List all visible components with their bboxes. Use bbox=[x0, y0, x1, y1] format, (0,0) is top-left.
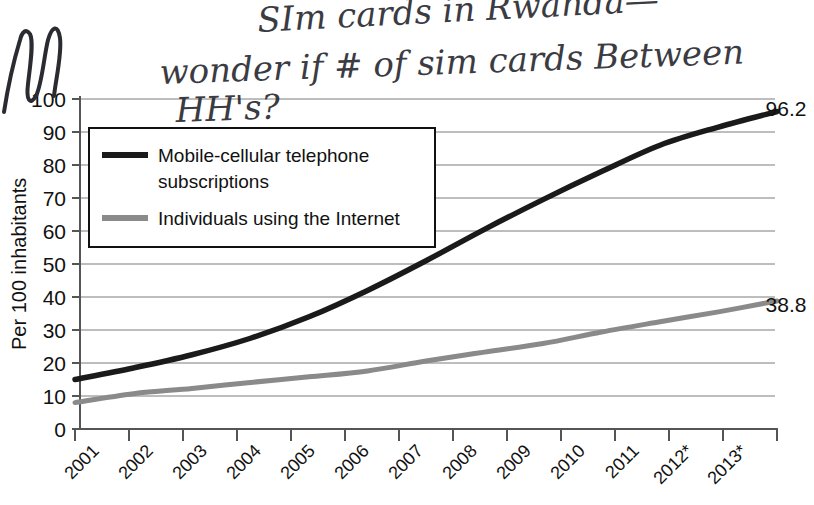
x-tick-label: 2010 bbox=[546, 441, 588, 483]
x-tick-label: 2002 bbox=[114, 441, 156, 483]
legend-label-mobile-line2: subscriptions bbox=[158, 171, 269, 192]
annotation-line-1: SIm cards in Rwanda— bbox=[256, 0, 659, 40]
x-tick-label: 2011 bbox=[601, 441, 643, 483]
x-tick-label: 2001 bbox=[60, 441, 102, 483]
x-tick-labels: 2001 2002 2003 2004 2005 2006 2007 2008 … bbox=[60, 441, 750, 488]
end-label-mobile: 96.2 bbox=[766, 97, 807, 120]
y-tick-label: 60 bbox=[43, 220, 66, 243]
y-tick-label: 10 bbox=[43, 385, 66, 408]
y-tick-label: 50 bbox=[43, 253, 66, 276]
x-tick-label: 2012* bbox=[649, 441, 696, 488]
y-tick-labels: 100 90 80 70 60 50 40 30 20 10 0 bbox=[31, 88, 66, 441]
y-tick-label: 80 bbox=[43, 154, 66, 177]
x-tick-label: 2006 bbox=[330, 441, 372, 483]
x-tick-label: 2003 bbox=[168, 441, 210, 483]
line-chart-svg: 100 90 80 70 60 50 40 30 20 10 0 Per 100… bbox=[0, 0, 814, 505]
y-tick-label: 70 bbox=[43, 187, 66, 210]
x-tick-label: 2008 bbox=[438, 441, 480, 483]
x-tick-label: 2004 bbox=[222, 441, 264, 483]
annotation-line-2: wonder if # of sim cards Between bbox=[159, 32, 745, 92]
legend-label-mobile-line1: Mobile-cellular telephone bbox=[158, 145, 369, 166]
x-tick-label: 2009 bbox=[492, 441, 534, 483]
y-axis-title: Per 100 inhabitants bbox=[8, 178, 30, 350]
y-tick-label: 0 bbox=[54, 418, 66, 441]
y-tick-label: 20 bbox=[43, 352, 66, 375]
y-tick-label: 30 bbox=[43, 319, 66, 342]
handwritten-annotation: SIm cards in Rwanda— wonder if # of sim … bbox=[4, 0, 745, 130]
series-line-individuals-using-the-internet bbox=[75, 301, 777, 403]
chart-figure: 100 90 80 70 60 50 40 30 20 10 0 Per 100… bbox=[0, 0, 814, 505]
x-tick-label: 2005 bbox=[276, 441, 318, 483]
chart-legend: Mobile-cellular telephone subscriptions … bbox=[89, 128, 435, 247]
y-tick-label: 90 bbox=[43, 121, 66, 144]
end-label-internet: 38.8 bbox=[766, 293, 807, 316]
legend-label-internet: Individuals using the Internet bbox=[158, 208, 401, 229]
x-tick-label: 2013* bbox=[703, 441, 750, 488]
y-tick-label: 40 bbox=[43, 286, 66, 309]
x-tick-label: 2007 bbox=[384, 441, 426, 483]
annotation-line-3: HH's? bbox=[174, 86, 281, 130]
x-tick-marks bbox=[75, 429, 777, 441]
